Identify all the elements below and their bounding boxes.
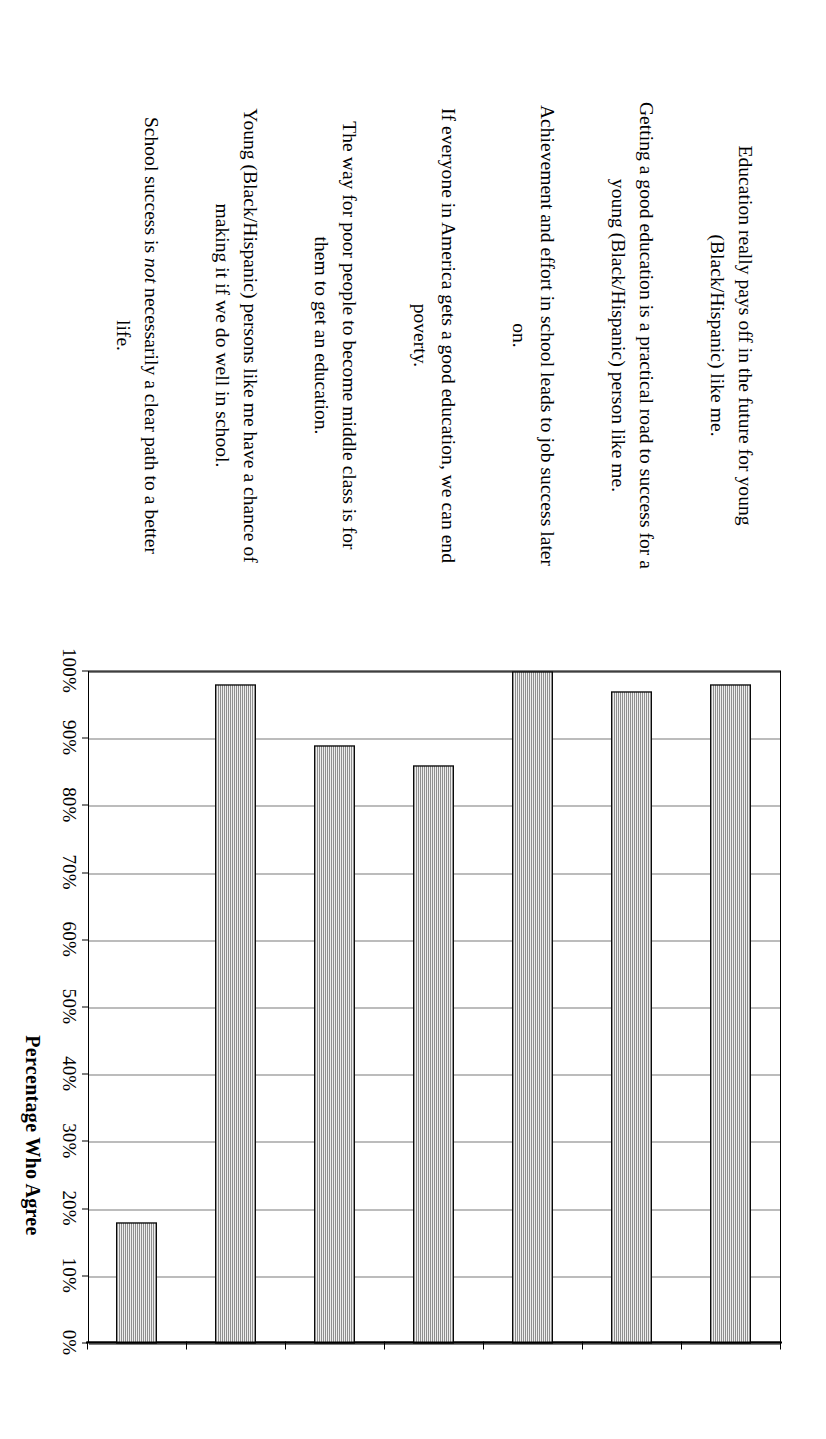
- value-tick-mark: [82, 737, 88, 738]
- category-label: Education really pays off in the future …: [704, 100, 759, 570]
- bar: [314, 745, 355, 1343]
- value-tick-label: 80%: [58, 769, 80, 839]
- value-tick-mark: [82, 1073, 88, 1074]
- category-tick-mark: [384, 1341, 385, 1349]
- value-tick-mark: [82, 804, 88, 805]
- value-tick-label: 90%: [58, 702, 80, 772]
- gridline-100: [89, 671, 780, 672]
- value-axis: 0%10%20%30%40%50%60%70%80%90%100%: [54, 670, 88, 1342]
- category-label: The way for poor people to become middle…: [308, 100, 363, 570]
- category-label: Young (Black/Hispanic) persons like me h…: [209, 100, 264, 570]
- category-label: Achievement and effort in school leads t…: [506, 100, 561, 570]
- bar: [215, 684, 256, 1343]
- category-label: Getting a good education is a practical …: [605, 100, 660, 570]
- value-tick-mark: [82, 1275, 88, 1276]
- value-tick-mark: [82, 939, 88, 940]
- bar: [413, 765, 454, 1343]
- bar: [512, 671, 553, 1343]
- value-tick-label: 50%: [58, 971, 80, 1041]
- bar: [710, 684, 751, 1343]
- value-tick-mark: [82, 1140, 88, 1141]
- value-tick-mark: [82, 1342, 88, 1343]
- value-axis-title: Percentage Who Agree: [21, 925, 44, 1345]
- category-tick-mark: [186, 1341, 187, 1349]
- category-tick-mark: [483, 1341, 484, 1349]
- value-tick-label: 70%: [58, 837, 80, 907]
- value-tick-mark: [82, 872, 88, 873]
- value-tick-label: 20%: [58, 1173, 80, 1243]
- bar: [611, 691, 652, 1343]
- rotated-chart-canvas: 0%10%20%30%40%50%60%70%80%90%100% Percen…: [0, 0, 826, 1439]
- value-tick-label: 40%: [58, 1038, 80, 1108]
- plot-area: [88, 670, 781, 1342]
- category-label: School success is not necessarily a clea…: [110, 100, 165, 570]
- value-tick-label: 60%: [58, 904, 80, 974]
- bar-chart-figure: 0%10%20%30%40%50%60%70%80%90%100% Percen…: [0, 0, 826, 1439]
- gridline-90: [89, 738, 780, 739]
- category-label: If everyone in America gets a good educa…: [407, 100, 462, 570]
- category-axis-ticks: [88, 1341, 781, 1351]
- category-tick-mark: [285, 1341, 286, 1349]
- bar: [116, 1222, 157, 1343]
- emphasis-text: not: [141, 258, 162, 283]
- category-tick-mark: [780, 1341, 781, 1349]
- value-tick-label: 0%: [58, 1307, 80, 1377]
- value-tick-mark: [82, 670, 88, 671]
- value-tick-mark: [82, 1208, 88, 1209]
- category-label-group: Education really pays off in the future …: [88, 0, 781, 600]
- category-tick-mark: [582, 1341, 583, 1349]
- value-tick-label: 100%: [58, 635, 80, 705]
- value-tick-label: 10%: [58, 1240, 80, 1310]
- category-tick-mark: [681, 1341, 682, 1349]
- value-tick-label: 30%: [58, 1105, 80, 1175]
- value-tick-mark: [82, 1006, 88, 1007]
